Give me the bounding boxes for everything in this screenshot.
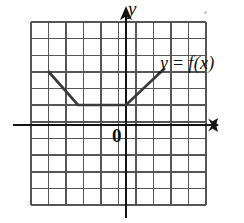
coordinate-plane-svg xyxy=(0,0,244,223)
dust-speck xyxy=(204,11,207,14)
y-axis-label: y xyxy=(128,0,136,18)
graph-figure: y 0 y = f(x) xyxy=(0,0,244,223)
origin-label: 0 xyxy=(112,126,122,145)
function-label-equals: = xyxy=(168,53,188,73)
function-equation-label: y = f(x) xyxy=(160,54,215,72)
grid-lines xyxy=(31,22,206,205)
function-label-arg: (x) xyxy=(194,53,215,73)
